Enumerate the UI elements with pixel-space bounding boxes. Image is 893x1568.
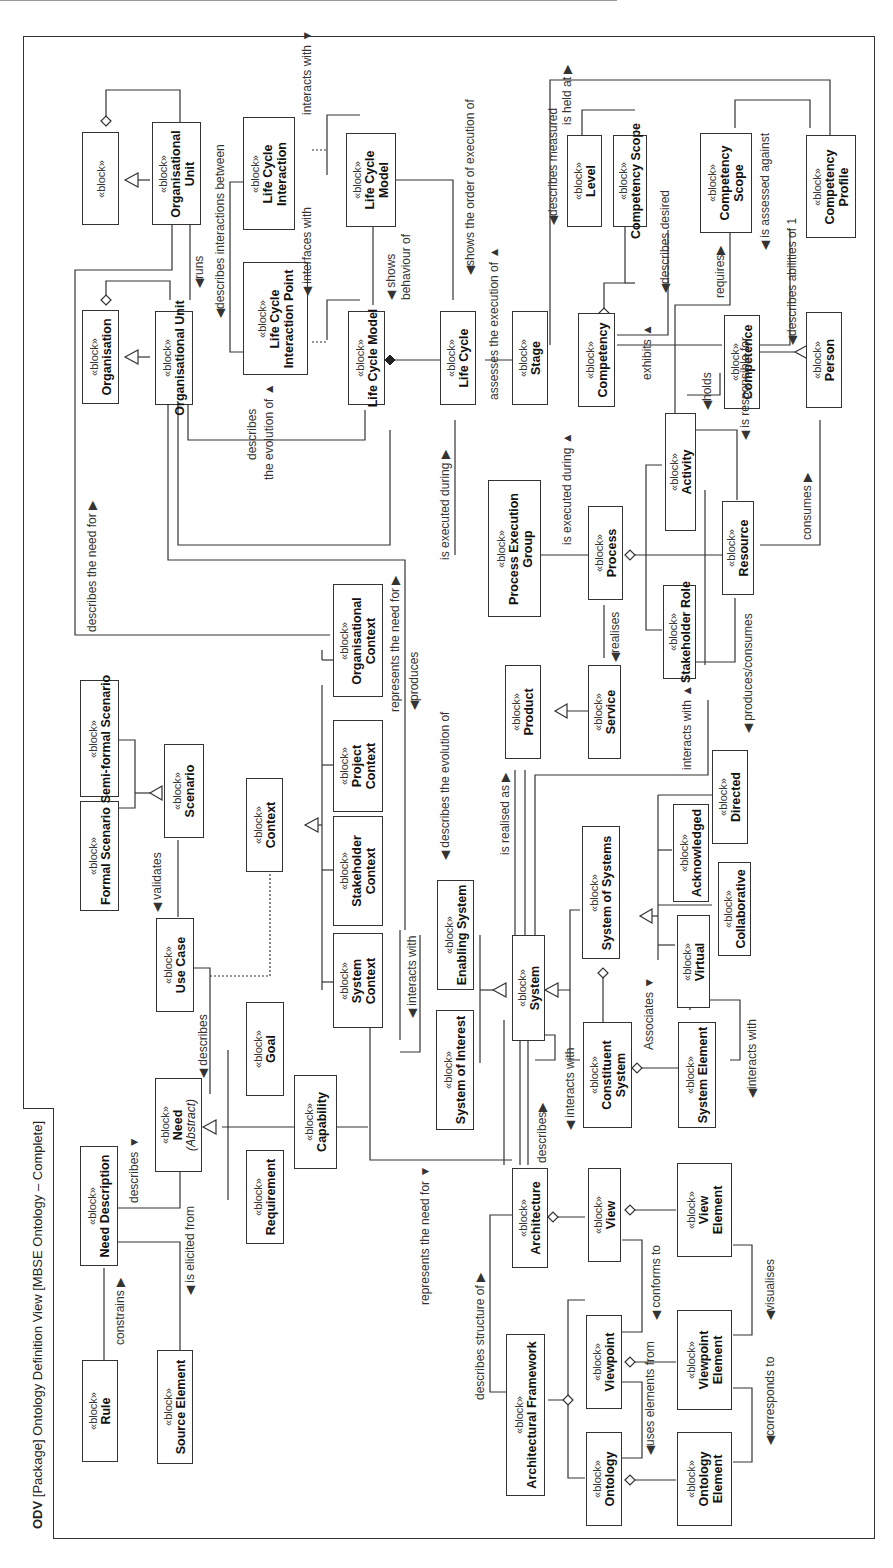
block-programme[interactable]: «block»Organisation: [82, 310, 119, 404]
label-runs: ◀runs: [192, 256, 206, 288]
block-resource[interactable]: «block»Person: [806, 312, 842, 408]
label-shows-behaviour-2: behaviour of: [399, 234, 413, 300]
block-competence[interactable]: «block»Competency: [578, 313, 615, 407]
label-uses-elements-from: ◀uses elements from: [643, 1341, 657, 1455]
label-validates: ◀ validates: [150, 852, 164, 912]
label-describes-abilities-of: ◀describes abilities of 1: [785, 218, 799, 345]
block-requirement[interactable]: «block»Requirement: [246, 1150, 284, 1244]
label-is-elicited-from: ◀ is elicited from: [183, 1206, 197, 1295]
block-gate[interactable]: «block»Stage: [512, 311, 548, 405]
block-project[interactable]: «block»Organisational Unit: [155, 311, 193, 405]
label-is-responsible-for: ◀ is responsible for: [738, 337, 752, 440]
block-view-element[interactable]: «block»ViewElement: [677, 1163, 732, 1257]
label-describes-structure-of: describes structure of ▶: [473, 1273, 487, 1400]
label-exhibits: exhibits ▲: [640, 324, 654, 380]
label-is-executed-during-process: is executed during ▲: [560, 432, 574, 545]
label-consumes: consumes ▶: [800, 473, 814, 540]
block-artefact[interactable]: «block»Stakeholder Role: [663, 585, 696, 679]
block-viewpoint-element[interactable]: «block»ViewpointElement: [677, 1310, 732, 1410]
label-interfaces-with: ◀ interfaces with: [300, 207, 314, 296]
block-system-context[interactable]: «block»SystemContext: [333, 933, 383, 1028]
label-describes-desired: ◀describes desired: [658, 190, 672, 293]
block-view[interactable]: «block»View: [588, 1168, 621, 1262]
block-organisational-unit[interactable]: «block»OrganisationalUnit: [152, 122, 201, 225]
label-describes-evolution-project-1: describes: [245, 409, 259, 460]
label-describes-use-case: ◀ describes: [196, 1014, 210, 1078]
block-architectural-framework[interactable]: «block»Architectural Framework: [506, 1334, 545, 1496]
block-level[interactable]: «block»Competency Scope: [613, 135, 647, 227]
block-formal-scenario[interactable]: «block»Formal Scenario: [80, 801, 119, 911]
label-assesses-execution: assesses the execution of ▲: [487, 247, 501, 400]
block-scenario[interactable]: «block»Scenario: [164, 744, 204, 838]
label-visualises: ◀visualises: [763, 1259, 777, 1320]
label-requires: requires▶: [713, 246, 727, 298]
label-interacts-with-lci: interacts with ▼: [300, 30, 314, 115]
label-describes-evolution-project-2: the evolution of ▲: [262, 383, 276, 480]
label-realises: ◀realises: [608, 612, 622, 662]
block-capability[interactable]: «block»Capability: [294, 1075, 337, 1169]
block-ontology[interactable]: «block»Ontology: [586, 1432, 622, 1526]
block-architecture[interactable]: «block»Architecture: [512, 1168, 548, 1268]
block-life-cycle[interactable]: «block»Life Cycle Model: [348, 311, 385, 405]
block-directed[interactable]: «block»Directed: [712, 750, 748, 844]
label-is-realised-as: is realised as ▶: [498, 773, 512, 855]
block-stakeholder-context[interactable]: «block»StakeholderContext: [333, 816, 383, 926]
block-service[interactable]: «block»Service: [588, 665, 621, 759]
label-interacts-with-service: interacts with ▲: [680, 685, 694, 770]
block-constituent-system[interactable]: «block»ConstituentSystem: [583, 1022, 632, 1128]
label-describes-measured: ◀describes measured: [546, 108, 560, 225]
label-produces-consumes: ◀ produces/consumes: [741, 613, 755, 733]
block-system-of-interest[interactable]: «block»System of Interest: [436, 1010, 474, 1130]
block-life-cycle-interaction[interactable]: «block»Life CycleInteraction: [243, 117, 295, 230]
label-describes-need-for-project: describes the need for ▶: [85, 501, 99, 632]
block-product[interactable]: «block»Product: [505, 665, 541, 759]
block-rule[interactable]: «block»Rule: [82, 1360, 118, 1462]
label-holds: ◀holds: [700, 372, 714, 410]
block-life-cycle-interaction-point[interactable]: «block»Life CycleInteraction Point: [243, 262, 308, 375]
block-process[interactable]: «block»Process: [588, 506, 623, 600]
block-system[interactable]: «block»System: [512, 935, 545, 1041]
block-project-context[interactable]: «block»ProjectContext: [333, 720, 383, 812]
block-system-of-systems[interactable]: «block»System of Systems: [582, 826, 620, 959]
block-ontology-element[interactable]: «block»OntologyElement: [677, 1432, 732, 1526]
label-represents-need-for-org: represents the need for ▶: [388, 576, 402, 712]
block-process-execution-group[interactable]: «block»Process ExecutionGroup: [488, 480, 541, 617]
label-corresponds-to: ◀corresponds to: [763, 1357, 777, 1445]
block-activity[interactable]: «block»Resource: [722, 501, 754, 595]
block-system-element[interactable]: «block»System Element: [678, 1022, 716, 1128]
label-describes-architecture: describes▶: [535, 1103, 549, 1163]
label-is-assessed-against: ◀ is assessed against: [758, 133, 772, 250]
block-acknowledged[interactable]: «block»Acknowledged: [673, 804, 709, 902]
block-stakeholder-role[interactable]: «block»Activity: [665, 413, 696, 531]
block-life-cycle-model[interactable]: «block»Life CycleModel: [346, 133, 396, 227]
label-is-held-at: is held at ▶: [560, 65, 574, 125]
label-produces: ◀produces: [407, 652, 421, 710]
block-competency[interactable]: «block»Level: [567, 135, 602, 227]
label-interacts-with-system-element: ◀interacts with: [745, 1019, 759, 1098]
block-enabling-system[interactable]: «block»Enabling System: [437, 880, 474, 990]
block-organisation[interactable]: «block»: [82, 132, 119, 225]
label-describes-evolution-lc: ◀ describes the evolution of: [438, 712, 452, 860]
label-shows-behaviour-1: ◀ shows: [384, 254, 398, 300]
block-source-element[interactable]: «block»Source Element: [157, 1350, 193, 1464]
label-interacts-with-system: ◀ interacts with: [563, 1048, 577, 1130]
block-goal[interactable]: «block»Goal: [246, 1002, 284, 1096]
label-shows-order-of-execution: ◀shows the order of execution of: [463, 99, 477, 275]
block-use-case[interactable]: «block»Use Case: [156, 918, 194, 1012]
label-constrains: constrains ▶: [113, 1278, 127, 1345]
label-describes-interactions-between: ◀describes interactions between: [213, 144, 227, 318]
block-semi-formal-scenario[interactable]: «block»Semi-formal Scenario: [80, 680, 119, 797]
block-competency-scope[interactable]: «block»CompetencyScope: [700, 133, 752, 233]
block-organisational-context[interactable]: «block»OrganisationalContext: [333, 584, 383, 697]
block-stage[interactable]: «block»Life Cycle: [440, 311, 476, 405]
block-competency-profile[interactable]: «block»CompetencyProfile: [806, 135, 856, 238]
label-describes-need: describes ▼: [127, 1136, 141, 1203]
label-is-executed-during-peg: is executed during ▶: [438, 450, 452, 560]
block-virtual[interactable]: «block»Virtual: [677, 915, 710, 1008]
label-conforms-to: ◀ conforms to: [649, 1245, 663, 1320]
block-collaborative[interactable]: «block»Collaborative: [718, 862, 751, 956]
block-need[interactable]: «block»Need(Abstract): [155, 1078, 202, 1172]
block-viewpoint[interactable]: «block»Viewpoint: [586, 1315, 622, 1409]
block-need-description[interactable]: «block»Need Description: [80, 1146, 118, 1266]
block-context[interactable]: «block»Context: [246, 778, 283, 872]
